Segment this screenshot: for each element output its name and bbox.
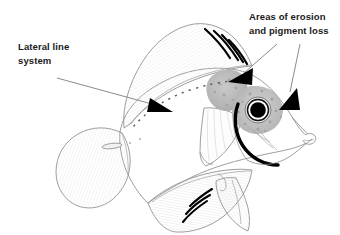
erosion-label: Areas of erosion and pigment loss — [249, 10, 329, 38]
erosion-arrowhead-2 — [279, 88, 300, 110]
caudal-fin — [56, 128, 130, 208]
erosion-label-line1: Areas of erosion — [249, 10, 329, 24]
erosion-label-line2: and pigment loss — [249, 24, 329, 38]
lateral-line-label-line1: Lateral line — [18, 40, 69, 54]
eye-pupil — [250, 102, 266, 118]
erosion-leader-2 — [290, 44, 300, 92]
lateral-line-label-line2: system — [18, 54, 69, 68]
lateral-line-label: Lateral line system — [18, 40, 69, 68]
